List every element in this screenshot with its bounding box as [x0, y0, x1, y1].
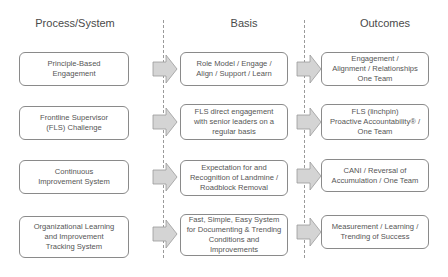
arrow-right-icon [296, 161, 322, 191]
process-box-organizational-learning: Organizational Learning and Improvement … [19, 216, 129, 258]
outcome-label: Measurement / Learning / Trending of Suc… [332, 222, 419, 242]
basis-label: Fast, Simple, Easy System for Documentin… [184, 215, 284, 255]
outcome-box-engagement: Engagement / Alignment / Relationships O… [321, 52, 429, 86]
outcome-box-cani: CANI / Reversal of Accumulation / One Te… [321, 159, 429, 192]
process-box-fls-challenge: Frontline Supervisor (FLS) Challenge [19, 106, 129, 140]
basis-box-fls-engagement: FLS direct engagement with senior leader… [180, 104, 288, 140]
outcome-label: CANI / Reversal of Accumulation / One Te… [332, 166, 419, 186]
arrow-right-icon [152, 54, 178, 84]
process-box-principle-based-engagement: Principle-Based Engagement [19, 52, 129, 86]
outcome-box-measurement: Measurement / Learning / Trending of Suc… [321, 215, 429, 249]
process-label: Continuous Improvement System [38, 167, 110, 187]
arrow-right-icon [296, 107, 322, 137]
basis-label: Role Model / Engage / Align / Support / … [196, 59, 272, 79]
process-label: Principle-Based Engagement [47, 59, 100, 79]
basis-box-role-model: Role Model / Engage / Align / Support / … [180, 52, 288, 86]
basis-label: FLS direct engagement with senior leader… [194, 107, 274, 137]
basis-label: Expectation for and Recognition of Landm… [190, 163, 278, 193]
header-basis: Basis [194, 17, 294, 29]
header-outcomes: Outcomes [335, 17, 435, 29]
process-label: Organizational Learning and Improvement … [34, 222, 115, 252]
process-box-continuous-improvement: Continuous Improvement System [19, 160, 129, 194]
arrow-right-icon [152, 162, 178, 192]
basis-box-landmine-removal: Expectation for and Recognition of Landm… [180, 160, 288, 196]
header-process-system: Process/System [15, 17, 135, 29]
arrow-right-icon [152, 107, 178, 137]
arrow-right-icon [296, 217, 322, 247]
process-label: Frontline Supervisor (FLS) Challenge [40, 113, 108, 133]
outcome-label: Engagement / Alignment / Relationships O… [332, 54, 418, 84]
outcome-label: FLS (linchpin) Proactive Accountability®… [330, 107, 420, 137]
basis-box-documenting-system: Fast, Simple, Easy System for Documentin… [180, 214, 288, 256]
arrow-right-icon [152, 219, 178, 249]
outcome-box-fls-linchpin: FLS (linchpin) Proactive Accountability®… [321, 104, 429, 140]
arrow-right-icon [296, 54, 322, 84]
